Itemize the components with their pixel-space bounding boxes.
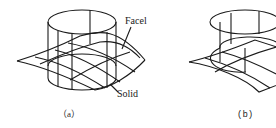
caption-b: (b) xyxy=(237,110,253,120)
solid-label: Solid xyxy=(117,88,138,99)
cylinder-solid-a xyxy=(48,10,116,90)
diagram-canvas: Facel Solid （a） (b) xyxy=(0,0,276,128)
panel-b: (b) xyxy=(189,10,276,120)
panel-a: Facel Solid （a） xyxy=(17,10,147,119)
facet-surface-b xyxy=(189,40,276,92)
caption-a: （a） xyxy=(58,109,80,119)
facet-leader-line xyxy=(122,27,131,49)
facet-label: Facel xyxy=(125,15,147,26)
